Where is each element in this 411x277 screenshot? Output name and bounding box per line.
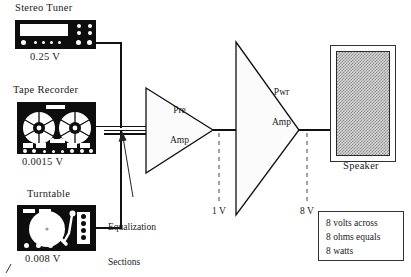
diagram-canvas: Stereo Tuner 0.25 V Tape Recorder [0,0,411,277]
annotation-arrow-line [123,137,133,197]
value-stereo-tuner: 0.25 V [30,51,60,62]
annotation-line1: Equalization [108,222,156,234]
note-line3: 8 watts [326,245,396,259]
annotation-line2: Sections [108,257,156,269]
speaker-enclosure [330,45,396,162]
turntable-icon [17,205,96,251]
label-turntable: Turntable [27,188,70,199]
label-tape-recorder: Tape Recorder [13,84,78,95]
label-pre-amp: Pre Amp [170,84,189,166]
note-line2: 8 ohms equals [326,231,396,245]
wire-tuner [96,43,121,128]
annotation-arrow-head [119,131,127,142]
label-speaker: Speaker [343,160,379,171]
pre-amp-line2: Amp [170,135,189,145]
stage-voltage-1v: 1 V [212,206,226,216]
power-amp-line1: Pwr [272,87,291,97]
power-note-box: 8 volts across 8 ohms equals 8 watts [318,211,404,261]
annotation-equalization-sections: Equalization Sections [108,198,156,277]
label-power-amp: Pwr Amp [272,66,291,148]
stray-mark [6,264,11,273]
tuner-icon [15,20,96,49]
value-tape-recorder: 0.0015 V [22,156,63,167]
value-turntable: 0.008 V [25,253,61,264]
stage-voltage-8v: 8 V [300,206,314,216]
power-amp-line2: Amp [272,117,291,127]
speaker-grille [336,51,390,156]
pre-amp-line1: Pre [170,105,189,115]
label-stereo-tuner: Stereo Tuner [15,2,73,13]
note-line1: 8 volts across [326,217,396,231]
reel-to-reel-icon [17,102,96,154]
